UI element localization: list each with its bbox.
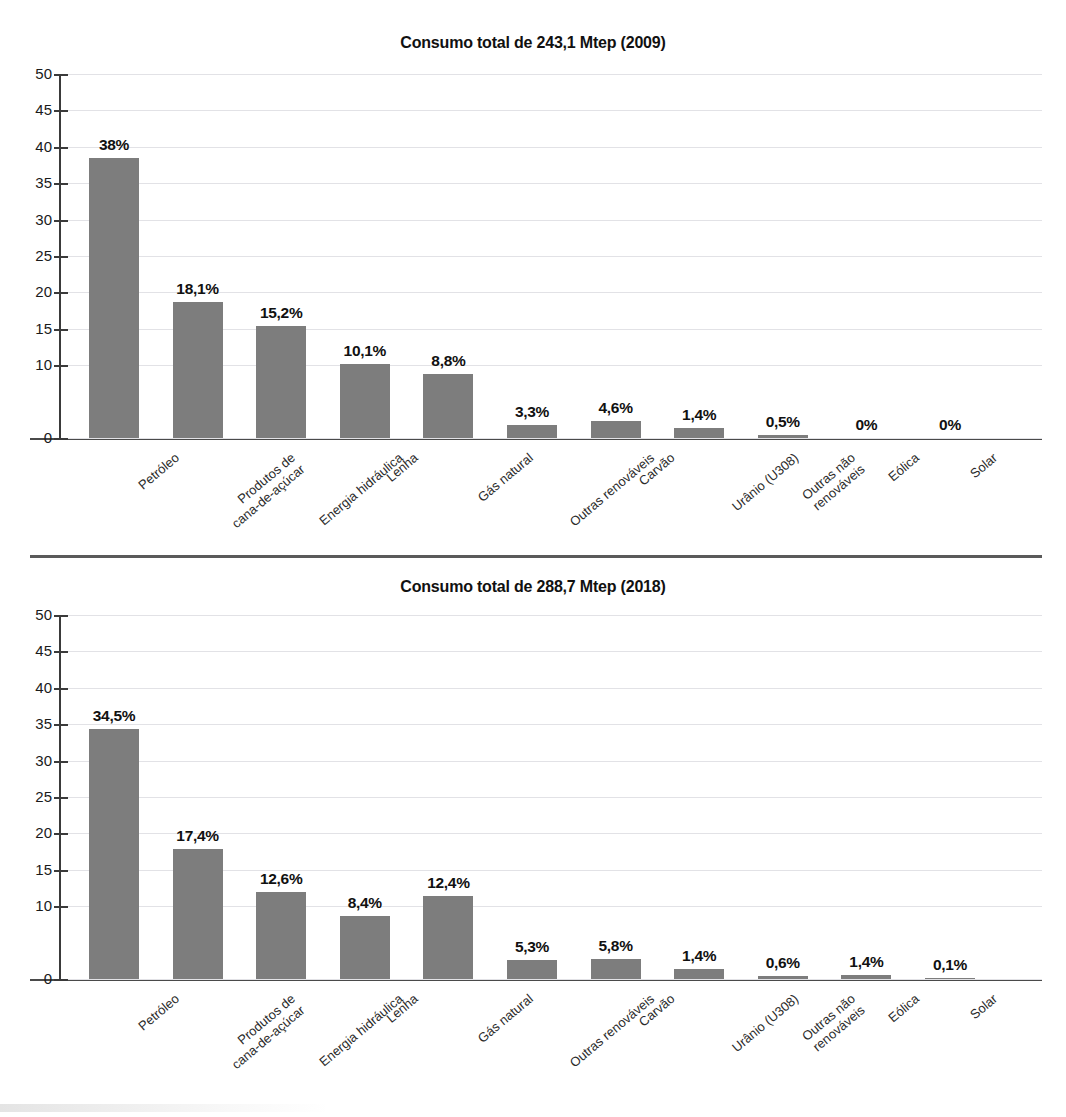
bar: [173, 302, 223, 438]
x-axis-category-label: Eólica: [885, 991, 922, 1025]
category-label-line: Gás natural: [474, 991, 535, 1046]
x-axis-category-label: Petróleo: [136, 450, 183, 493]
bar: [89, 729, 139, 979]
chart-panel-2018: Consumo total de 288,7 Mtep (2018) 50454…: [0, 552, 1066, 1117]
bar: [674, 969, 724, 979]
chart-title: Consumo total de 288,7 Mtep (2018): [0, 578, 1066, 596]
y-axis-tick-label: 50: [35, 606, 52, 623]
gridline: [60, 438, 1042, 439]
x-axis-category-label: Urânio (U308): [729, 450, 801, 514]
tick-mark: [54, 651, 68, 653]
bar-value-label: 34,5%: [93, 707, 135, 725]
tick-mark: [54, 365, 68, 367]
category-label-line: Eólica: [885, 991, 922, 1025]
tick-mark: [54, 870, 68, 872]
bar-value-label: 0,5%: [766, 413, 800, 431]
bar-value-label: 0,1%: [933, 956, 967, 974]
category-label-line: Urânio (U308): [729, 991, 801, 1055]
tick-mark: [54, 688, 68, 690]
category-label-line: Petróleo: [136, 450, 183, 493]
bar: [925, 978, 975, 979]
bar: [507, 960, 557, 979]
gridline: [60, 183, 1042, 184]
category-label-line: Urânio (U308): [729, 450, 801, 514]
y-axis-tick-label: 35: [35, 174, 52, 191]
tick-mark: [54, 183, 68, 185]
y-axis-tick-label: 45: [35, 102, 52, 119]
gridline: [60, 147, 1042, 148]
tick-mark: [54, 615, 68, 617]
y-axis-tick-label: 40: [35, 679, 52, 696]
tick-mark: [54, 833, 68, 835]
bar-value-label: 10,1%: [344, 342, 386, 360]
bar: [173, 849, 223, 979]
page-bottom-artifact: [0, 1104, 330, 1112]
y-axis-tick-label: 20: [35, 825, 52, 842]
y-axis-tick-label: 15: [35, 320, 52, 337]
x-axis-category-label: Petróleo: [136, 991, 183, 1034]
bar-value-label: 8,4%: [348, 894, 382, 912]
tick-mark: [54, 220, 68, 222]
category-label-line: Energia hidráulica: [316, 991, 405, 1069]
x-axis-category-label: Gás natural: [474, 991, 535, 1046]
x-axis-category-label: Outras nãorenováveis: [799, 450, 868, 514]
tick-mark: [54, 110, 68, 112]
category-label-line: Outras renováveis: [567, 450, 657, 529]
y-axis-tick-label: 30: [35, 752, 52, 769]
gridline: [60, 797, 1042, 798]
bar-value-label: 1,4%: [682, 406, 716, 424]
gridline: [60, 651, 1042, 652]
figure-page: Consumo total de 243,1 Mtep (2009) 50454…: [0, 0, 1066, 1117]
x-axis-category-label: Outras renováveis: [567, 450, 657, 529]
gridline: [60, 220, 1042, 221]
gridline: [60, 74, 1042, 75]
bar-value-label: 12,4%: [427, 874, 469, 892]
bar-value-label: 3,3%: [515, 403, 549, 421]
gridline: [60, 724, 1042, 725]
plot-area: 504540353025201510038%Petróleo18,1%Produ…: [60, 74, 1042, 438]
bar-value-label: 18,1%: [176, 280, 218, 298]
panel-divider: [30, 555, 1042, 558]
y-axis-tick-label: 40: [35, 138, 52, 155]
y-axis-tick-label: 45: [35, 643, 52, 660]
bar: [841, 975, 891, 979]
tick-mark: [54, 906, 68, 908]
bar: [423, 374, 473, 438]
x-axis-category-label: Urânio (U308): [729, 991, 801, 1055]
bar-value-label: 1,4%: [682, 947, 716, 965]
gridline: [60, 110, 1042, 111]
category-label-line: Eólica: [885, 450, 922, 484]
gridline: [60, 256, 1042, 257]
y-axis-tick-label: 0: [44, 429, 52, 446]
bar-value-label: 1,4%: [849, 953, 883, 971]
tick-mark: [54, 979, 68, 981]
y-axis-tick-label: 25: [35, 247, 52, 264]
tick-mark: [54, 256, 68, 258]
bar-value-label: 0%: [939, 416, 961, 434]
y-axis-tick-label: 50: [35, 65, 52, 82]
category-label-line: Petróleo: [136, 991, 183, 1034]
bar-value-label: 38%: [99, 136, 129, 154]
category-label-line: Energia hidráulica: [316, 450, 405, 528]
chart-panel-2009: Consumo total de 243,1 Mtep (2009) 50454…: [0, 0, 1066, 552]
tick-mark: [54, 329, 68, 331]
x-axis-category-label: Produtos decana-de-açúcar: [219, 450, 307, 531]
y-axis-tick-label: 30: [35, 211, 52, 228]
y-axis-tick-label: 10: [35, 897, 52, 914]
x-axis-category-label: Eólica: [885, 450, 922, 484]
bar-value-label: 0,6%: [766, 954, 800, 972]
y-axis-tick-label: 10: [35, 356, 52, 373]
x-axis-category-label: Solar: [967, 450, 1000, 481]
gridline: [60, 615, 1042, 616]
bar-value-label: 0%: [855, 416, 877, 434]
x-axis-category-label: Gás natural: [474, 450, 535, 505]
bar: [591, 421, 641, 438]
category-label-line: Solar: [967, 450, 1000, 481]
bar: [423, 896, 473, 979]
x-axis-category-label: Energia hidráulica: [316, 450, 405, 528]
category-label-line: Gás natural: [474, 450, 535, 505]
category-label-line: Solar: [967, 991, 1000, 1022]
bar: [591, 959, 641, 979]
gridline: [60, 761, 1042, 762]
chart-title: Consumo total de 243,1 Mtep (2009): [0, 34, 1066, 52]
